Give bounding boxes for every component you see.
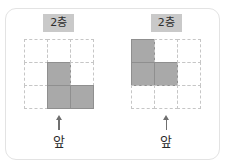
grid-cell-filled (131, 62, 155, 86)
grid-wrapper-left (24, 39, 93, 108)
front-label-right: 앞 (160, 135, 172, 148)
grid-cell-empty (177, 39, 201, 63)
grid-cell-empty (24, 39, 48, 63)
figure-root: 2층 앞 2층 앞 (0, 0, 225, 167)
panel-container: 2층 앞 2층 앞 (5, 8, 220, 160)
front-indicator-left: 앞 (53, 115, 65, 148)
grid-cell-empty (24, 85, 48, 109)
floor-label-left: 2층 (43, 14, 74, 32)
grid-cell-empty (47, 39, 71, 63)
arrow-up-icon (162, 115, 171, 130)
grid-cell-filled (154, 62, 178, 86)
grid-wrapper-right (132, 39, 201, 108)
grid-cell-empty (177, 85, 201, 109)
grid-cell-filled (70, 85, 94, 109)
grid-cell-empty (70, 39, 94, 63)
arrow-up-icon (54, 115, 63, 130)
front-indicator-right: 앞 (160, 115, 172, 148)
floor-label-right: 2층 (151, 14, 182, 32)
grid-cell-empty (177, 62, 201, 86)
floor-grid-left (24, 39, 93, 108)
grid-cell-empty (154, 39, 178, 63)
grid-cell-empty (154, 85, 178, 109)
left-panel: 2층 앞 (5, 8, 113, 160)
grid-cell-empty (24, 62, 48, 86)
right-panel: 2층 앞 (113, 8, 221, 160)
grid-cell-empty (131, 85, 155, 109)
grid-cell-filled (131, 39, 155, 63)
grid-cell-filled (47, 85, 71, 109)
grid-cell-filled (47, 62, 71, 86)
front-label-left: 앞 (53, 135, 65, 148)
floor-grid-right (132, 39, 201, 108)
grid-cell-empty (70, 62, 94, 86)
